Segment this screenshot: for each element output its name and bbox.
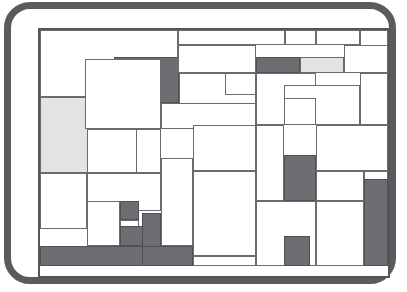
packed-rect bbox=[161, 158, 193, 246]
packed-rect bbox=[87, 201, 120, 246]
packed-rect bbox=[285, 30, 316, 45]
packed-rect bbox=[40, 173, 87, 229]
packed-rect bbox=[142, 246, 193, 266]
device-frame bbox=[4, 2, 396, 284]
packed-rect bbox=[364, 179, 388, 266]
packed-rect bbox=[136, 129, 161, 173]
packed-rect bbox=[344, 45, 388, 73]
figure-stage bbox=[0, 0, 407, 292]
packed-rect bbox=[85, 59, 161, 129]
packed-rect bbox=[316, 201, 364, 266]
packed-rect bbox=[256, 125, 284, 201]
packed-rect bbox=[284, 236, 310, 266]
packed-rect bbox=[316, 30, 360, 45]
packed-rect bbox=[284, 98, 316, 125]
packed-rect bbox=[316, 125, 388, 171]
packed-rect bbox=[193, 171, 256, 256]
packed-rect bbox=[316, 171, 364, 201]
packed-rect bbox=[193, 125, 256, 171]
packed-rect bbox=[300, 57, 344, 73]
packed-rect bbox=[360, 73, 388, 125]
packed-rect bbox=[193, 256, 256, 266]
packed-rect bbox=[178, 45, 256, 73]
packed-rect bbox=[225, 73, 256, 95]
packed-rect bbox=[284, 155, 316, 201]
packed-rect bbox=[178, 30, 285, 45]
packed-rect bbox=[120, 201, 139, 220]
packing-canvas bbox=[38, 28, 390, 278]
packed-rect bbox=[256, 57, 300, 73]
